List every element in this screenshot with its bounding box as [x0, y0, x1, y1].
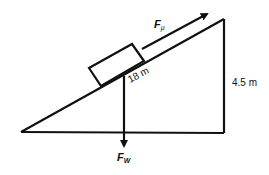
friction-force-label: Fμ [154, 18, 165, 32]
incline-triangle [21, 19, 224, 133]
inclined-plane-diagram: Fμ 18 m 4.5 m FW [0, 0, 269, 175]
weight-force-label: FW [117, 151, 132, 164]
friction-force-arrow [142, 14, 207, 49]
height-label: 4.5 m [232, 77, 257, 88]
incline-hypotenuse [21, 19, 224, 132]
incline-base [21, 132, 224, 133]
